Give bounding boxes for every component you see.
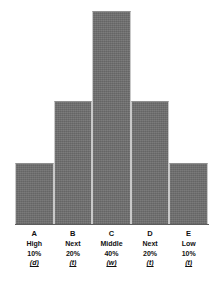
tier-label-c: Middle	[92, 239, 131, 249]
axis-tick-label-e: E	[169, 229, 208, 239]
axis-tick-label-d: D	[131, 229, 170, 239]
annotation-d: (t)	[131, 258, 170, 268]
axis-label-group-d: D Next 20% (t)	[131, 229, 170, 268]
axis-tick-label-c: C	[92, 229, 131, 239]
percent-label-a: 10%	[15, 249, 54, 259]
tier-label-e: Low	[169, 239, 208, 249]
axis-baseline	[15, 224, 209, 225]
plot-area	[15, 8, 208, 225]
tier-label-a: High	[15, 239, 54, 249]
bar-chart-figure: A High 10% (d) B Next 20% (t) C Middle 4…	[0, 0, 223, 281]
annotation-c: (w)	[92, 258, 131, 268]
bar-a	[15, 163, 54, 225]
bar-d	[131, 101, 170, 225]
x-axis-labels: A High 10% (d) B Next 20% (t) C Middle 4…	[15, 229, 208, 279]
percent-label-c: 40%	[92, 249, 131, 259]
axis-label-group-c: C Middle 40% (w)	[92, 229, 131, 268]
percent-label-b: 20%	[54, 249, 93, 259]
tier-label-b: Next	[54, 239, 93, 249]
annotation-e: (t)	[169, 258, 208, 268]
percent-label-e: 10%	[169, 249, 208, 259]
percent-label-d: 20%	[131, 249, 170, 259]
axis-tick-label-b: B	[54, 229, 93, 239]
axis-tick-label-a: A	[15, 229, 54, 239]
bar-c	[92, 11, 131, 225]
bar-b	[54, 101, 93, 225]
axis-label-group-a: A High 10% (d)	[15, 229, 54, 268]
axis-label-group-e: E Low 10% (t)	[169, 229, 208, 268]
axis-label-group-b: B Next 20% (t)	[54, 229, 93, 268]
bar-e	[169, 163, 208, 225]
annotation-b: (t)	[54, 258, 93, 268]
annotation-a: (d)	[15, 258, 54, 268]
tier-label-d: Next	[131, 239, 170, 249]
